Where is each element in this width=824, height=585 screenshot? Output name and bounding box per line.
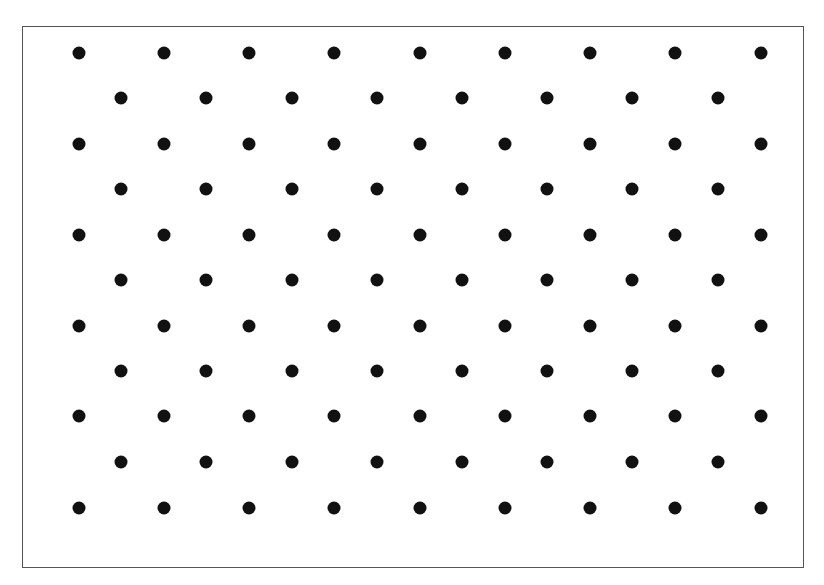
dot	[755, 229, 768, 242]
dot	[115, 456, 128, 469]
dot	[243, 502, 256, 515]
dot	[286, 456, 299, 469]
dot	[371, 456, 384, 469]
dot	[328, 138, 341, 151]
dot	[541, 183, 554, 196]
dot	[158, 320, 171, 333]
dot	[200, 183, 213, 196]
dot	[158, 229, 171, 242]
dot	[328, 320, 341, 333]
dot	[414, 320, 427, 333]
dot	[73, 229, 86, 242]
dot	[328, 229, 341, 242]
dot	[584, 138, 597, 151]
dot	[541, 92, 554, 105]
dot	[626, 92, 639, 105]
dot	[499, 320, 512, 333]
dot	[755, 320, 768, 333]
dot	[115, 274, 128, 287]
dot	[414, 138, 427, 151]
dot	[286, 92, 299, 105]
dot	[414, 229, 427, 242]
dot	[286, 274, 299, 287]
dot	[286, 365, 299, 378]
dot	[626, 365, 639, 378]
dot-lattice	[0, 0, 824, 585]
dot	[414, 410, 427, 423]
dot	[73, 47, 86, 60]
dot	[243, 229, 256, 242]
dot	[328, 47, 341, 60]
dot	[243, 138, 256, 151]
dot	[755, 138, 768, 151]
dot	[499, 47, 512, 60]
dot	[712, 456, 725, 469]
dot	[200, 92, 213, 105]
dot	[158, 47, 171, 60]
dot	[541, 456, 554, 469]
dot	[456, 456, 469, 469]
dot	[669, 410, 682, 423]
dot	[541, 365, 554, 378]
dot	[499, 410, 512, 423]
dot	[286, 183, 299, 196]
dot	[328, 502, 341, 515]
dot	[712, 183, 725, 196]
dot	[669, 320, 682, 333]
dot	[115, 92, 128, 105]
dot	[456, 183, 469, 196]
dot	[584, 47, 597, 60]
dot	[584, 320, 597, 333]
dot	[669, 138, 682, 151]
dot	[200, 365, 213, 378]
dot	[626, 274, 639, 287]
dot	[499, 229, 512, 242]
dot	[243, 410, 256, 423]
dot	[541, 274, 554, 287]
dot	[499, 138, 512, 151]
dot	[328, 410, 341, 423]
dot	[712, 274, 725, 287]
dot	[712, 92, 725, 105]
dot	[158, 138, 171, 151]
dot	[584, 410, 597, 423]
dot	[371, 92, 384, 105]
dot	[200, 456, 213, 469]
dot	[755, 502, 768, 515]
dot	[243, 47, 256, 60]
dot	[115, 365, 128, 378]
dot	[669, 47, 682, 60]
dot	[73, 502, 86, 515]
dot	[456, 274, 469, 287]
dot	[456, 365, 469, 378]
dot	[371, 274, 384, 287]
dot	[371, 365, 384, 378]
dot	[73, 138, 86, 151]
dot	[712, 365, 725, 378]
dot	[115, 183, 128, 196]
dot	[414, 502, 427, 515]
dot	[626, 183, 639, 196]
dot	[499, 502, 512, 515]
dot	[158, 410, 171, 423]
dot	[755, 410, 768, 423]
dot	[414, 47, 427, 60]
dot	[73, 320, 86, 333]
dot	[371, 183, 384, 196]
dot	[584, 229, 597, 242]
dot	[626, 456, 639, 469]
dot	[158, 502, 171, 515]
dot	[669, 229, 682, 242]
dot	[669, 502, 682, 515]
dot	[456, 92, 469, 105]
dot	[243, 320, 256, 333]
dot	[73, 410, 86, 423]
dot	[755, 47, 768, 60]
dot	[584, 502, 597, 515]
dot	[200, 274, 213, 287]
